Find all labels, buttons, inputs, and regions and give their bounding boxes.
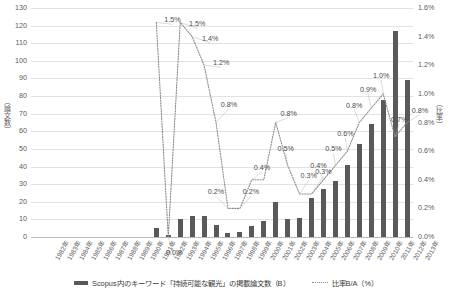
- legend-label-line: 比率B/A（%）: [332, 277, 378, 288]
- y-axis-left-title: （論文数）: [2, 98, 12, 133]
- y-axis-right-tick-label: 0.2%: [418, 205, 434, 212]
- plot-area: 0102030405060708090100110120130 0.0%0.2%…: [31, 8, 413, 237]
- label-leader-line: [381, 80, 383, 94]
- data-label: 0.4%: [310, 162, 326, 169]
- ratio-line-path: [156, 22, 407, 237]
- data-label: 0.8%: [221, 101, 237, 108]
- y-axis-left-tick-label: 0: [23, 233, 27, 240]
- label-leader-line: [240, 196, 251, 208]
- y-axis-left-tick-label: 60: [19, 128, 27, 135]
- y-axis-left-tick-label: 50: [19, 145, 27, 152]
- data-label: 0.5%: [277, 146, 293, 153]
- data-label: 0.4%: [254, 164, 270, 171]
- legend-label-bar: Scopus内のキーワード「持続可能な観光」の掲載論文数（B）: [92, 277, 290, 288]
- data-label: 0.2%: [243, 189, 259, 196]
- data-label: 1.5%: [164, 17, 180, 24]
- y-axis-left-tick-label: 90: [19, 75, 27, 82]
- y-axis-left-tick-label: 100: [15, 57, 27, 64]
- data-label: 1.0%: [373, 72, 389, 79]
- bar-swatch-icon: [74, 281, 88, 285]
- y-axis-right-tick-label: 1.4%: [418, 33, 434, 40]
- chart-container: （論文数） （比率） 01020304050607080901001101201…: [0, 0, 452, 293]
- y-axis-right-tick-label: 0.4%: [418, 176, 434, 183]
- data-label: 0.8%: [281, 110, 297, 117]
- chart-legend: Scopus内のキーワード「持続可能な観光」の掲載論文数（B） 比率B/A（%）: [0, 277, 452, 288]
- y-axis-right-tick-label: 1.6%: [418, 4, 434, 11]
- y-axis-left-tick-label: 70: [19, 110, 27, 117]
- y-axis-left-tick-label: 40: [19, 163, 27, 170]
- data-label: 0.8%: [412, 107, 428, 114]
- label-leader-line: [252, 172, 262, 180]
- y-axis-right-tick-label: 0.6%: [418, 148, 434, 155]
- data-label: 1.4%: [202, 35, 218, 42]
- y-axis-right-title: （比率）: [434, 100, 444, 128]
- y-axis-right-tick-label: 1.0%: [418, 90, 434, 97]
- legend-item-bar: Scopus内のキーワード「持続可能な観光」の掲載論文数（B）: [74, 277, 290, 288]
- legend-item-line: 比率B/A（%）: [312, 277, 378, 288]
- dotted-line-swatch-icon: [312, 282, 328, 283]
- label-leader-line: [333, 153, 335, 165]
- data-label: 0.3%: [300, 172, 316, 179]
- y-axis-right-tick-label: 0.8%: [418, 119, 434, 126]
- data-label: 0.8%: [346, 102, 362, 109]
- data-label: 1.5%: [189, 21, 205, 28]
- label-leader-line: [276, 118, 289, 123]
- data-label: 0.5%: [325, 146, 341, 153]
- y-axis-left-tick-label: 20: [19, 198, 27, 205]
- data-label: 0.7%: [391, 116, 407, 123]
- label-leader-line: [216, 109, 229, 123]
- data-label: 0.2%: [208, 189, 224, 196]
- label-leader-line: [354, 110, 359, 123]
- ratio-line-series: [31, 8, 413, 237]
- data-label: 1.2%: [213, 60, 229, 67]
- x-axis-labels: 1982年1983年1984年1985年1986年1987年1988年1989年…: [31, 238, 413, 274]
- y-axis-left-tick-label: 80: [19, 92, 27, 99]
- y-axis-left-tick-label: 30: [19, 181, 27, 188]
- label-leader-line: [300, 180, 309, 194]
- y-axis-left-tick-label: 10: [19, 216, 27, 223]
- y-axis-left-tick-label: 110: [16, 40, 27, 47]
- label-leader-line: [345, 138, 347, 151]
- y-axis-left-tick-label: 130: [15, 4, 27, 11]
- label-leader-line: [368, 94, 371, 108]
- y-axis-left-tick-label: 120: [15, 22, 27, 29]
- data-label: 0.6%: [337, 131, 353, 138]
- y-axis-right-tick-label: 1.2%: [418, 62, 434, 69]
- data-label: 0.9%: [360, 87, 376, 94]
